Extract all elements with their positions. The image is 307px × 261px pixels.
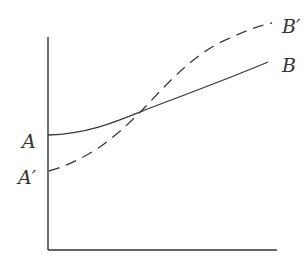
label-b-prime: B′ bbox=[281, 15, 301, 37]
diagram-canvas: A A′ B B′ bbox=[0, 0, 307, 261]
label-a-prime: A′ bbox=[16, 166, 37, 188]
solid-curve-a-to-b bbox=[48, 62, 268, 135]
label-b: B bbox=[281, 54, 296, 76]
label-a: A bbox=[20, 130, 36, 152]
dashed-curve-a-prime-to-b-prime bbox=[49, 23, 272, 171]
